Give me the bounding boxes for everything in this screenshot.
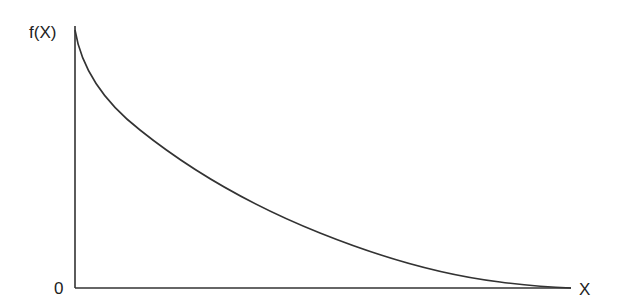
origin-label: 0 (54, 279, 63, 298)
chart-canvas: f(X) 0 X (0, 0, 622, 306)
y-axis-label: f(X) (29, 23, 56, 42)
x-axis-label: X (579, 280, 590, 299)
density-curve (75, 30, 571, 288)
